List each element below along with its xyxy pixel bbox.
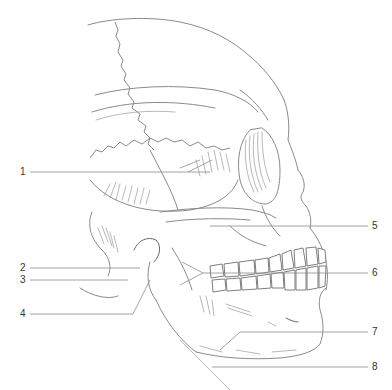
label-1: 1	[20, 167, 26, 177]
label-2: 2	[20, 263, 26, 273]
leader-line-4	[30, 280, 150, 314]
skull-illustration	[0, 0, 392, 390]
leader-line-7	[220, 332, 368, 350]
leader-line-1-branch-b	[188, 160, 212, 172]
label-6: 6	[372, 268, 378, 278]
label-7: 7	[372, 327, 378, 337]
label-5: 5	[372, 221, 378, 231]
skull-diagram: 1 2 3 4 5 6 7 8	[0, 0, 392, 390]
label-4: 4	[20, 309, 26, 319]
label-3: 3	[20, 275, 26, 285]
label-8: 8	[372, 362, 378, 372]
